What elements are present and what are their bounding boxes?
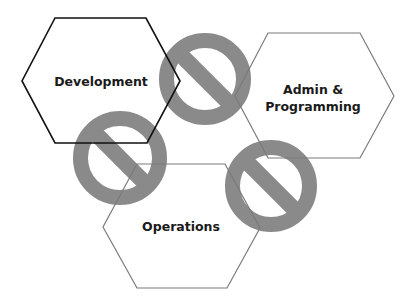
- hexagon-label-admin-programming: Programming: [265, 99, 361, 114]
- hexagon-label-admin-programming: Admin &: [283, 82, 343, 97]
- prohibition-icon: [233, 148, 310, 225]
- hexagon-label-operations: Operations: [142, 219, 220, 234]
- hexagon-label-development: Development: [54, 74, 148, 89]
- prohibition-icon: [81, 119, 160, 198]
- silo-diagram: DevelopmentAdmin &ProgrammingOperations: [0, 0, 412, 304]
- hexagon-labels: DevelopmentAdmin &ProgrammingOperations: [54, 74, 361, 234]
- prohibition-symbols: [81, 41, 310, 225]
